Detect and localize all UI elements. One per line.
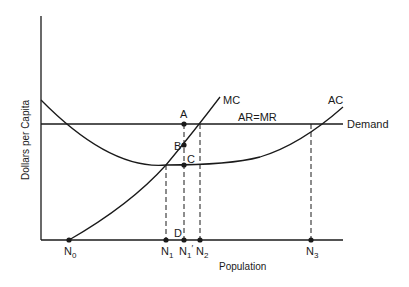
y-axis-title: Dollars per Capita (20, 100, 31, 180)
ac-label: AC (328, 94, 343, 106)
demand-label: Demand (347, 118, 389, 130)
armr-label: AR=MR (238, 111, 277, 123)
x-axis-title: Population (219, 261, 266, 272)
label-a: A (180, 108, 188, 120)
point-a (181, 121, 186, 126)
economics-diagram: MC AC AR=MR Demand A B C D N0 N1 N1′ N2 … (0, 0, 409, 287)
point-n1p (181, 237, 186, 242)
point-n1 (163, 237, 168, 242)
point-n0 (66, 237, 71, 242)
point-b (181, 142, 186, 147)
tick-n1p: N1′ (179, 243, 193, 260)
point-n3 (308, 237, 313, 242)
point-c (181, 162, 186, 167)
mc-curve (69, 97, 220, 240)
tick-n0: N0 (64, 245, 77, 260)
label-d: D (174, 227, 182, 239)
label-c: C (187, 153, 195, 165)
tick-n3: N3 (306, 245, 319, 260)
tick-n1: N1 (161, 245, 174, 260)
point-n2 (197, 237, 202, 242)
tick-n2: N2 (196, 245, 209, 260)
label-b: B (174, 140, 181, 152)
mc-label: MC (223, 94, 240, 106)
